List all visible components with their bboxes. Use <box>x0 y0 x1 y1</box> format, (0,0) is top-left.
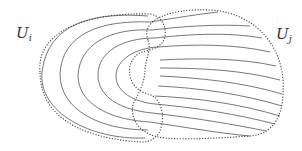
region-ui-label: Ui <box>16 26 32 43</box>
region-uj-leaves <box>150 12 282 136</box>
label-ui-base: U <box>16 24 29 42</box>
region-uj-boundary <box>132 10 283 139</box>
foliation-diagram <box>0 0 302 151</box>
region-uj-label: Uj <box>276 27 292 44</box>
label-uj-base: U <box>276 25 289 43</box>
label-ui-subscript: i <box>29 32 32 43</box>
label-uj-subscript: j <box>289 33 292 44</box>
